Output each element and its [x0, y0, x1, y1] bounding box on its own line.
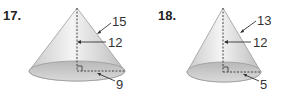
figure-17: 17. 15 12 9: [0, 0, 142, 102]
figure-number: 17.: [3, 8, 21, 23]
slant-height-label: 13: [257, 13, 271, 28]
radius-label: 9: [116, 77, 123, 92]
figure-18: 18. 13 12 5: [142, 0, 284, 102]
height-label: 12: [108, 35, 122, 50]
slant-height-label: 15: [112, 14, 126, 29]
height-label: 12: [253, 35, 267, 50]
figure-number: 18.: [158, 8, 176, 23]
radius-label: 5: [260, 77, 267, 92]
